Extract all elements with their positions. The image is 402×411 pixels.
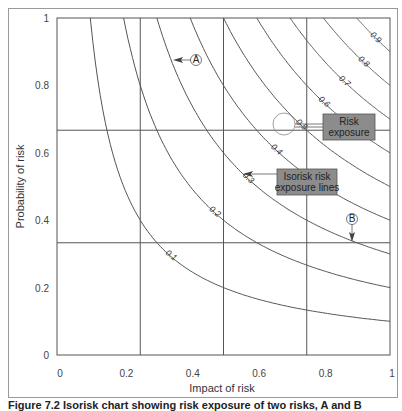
x-tick-label: 1: [389, 368, 395, 379]
x-tick-label: 0.2: [119, 368, 133, 379]
isorisk-curve-0-8: [323, 18, 390, 85]
y-tick-label: 1: [43, 13, 49, 24]
curve-label-0-4: 0.4: [269, 142, 285, 158]
y-tick-label: 0.6: [35, 148, 49, 159]
isorisk-curve-0-1: [90, 18, 390, 321]
y-tick-label: 0.4: [35, 215, 49, 226]
highlight-circle-0-5: [273, 113, 295, 135]
curve-label-0-8: 0.8: [356, 54, 372, 70]
risk-box-line1: Risk: [339, 116, 359, 127]
x-tick-label: 0.6: [252, 368, 266, 379]
y-tick-label: 0.8: [35, 80, 49, 91]
curve-label-0-1: 0.1: [164, 247, 180, 262]
plot-area: 00.20.40.60.8100.20.40.60.81Impact of ri…: [14, 13, 395, 394]
marker-a-label: A: [193, 54, 200, 65]
curve-label-0-7: 0.7: [337, 73, 353, 89]
y-tick-label: 0: [43, 350, 49, 361]
curve-label-0-9: 0.9: [368, 29, 384, 45]
marker-b-label: B: [349, 213, 356, 224]
x-axis-label: Impact of risk: [189, 382, 255, 394]
figure-caption: Figure 7.2 Isorisk chart showing risk ex…: [8, 399, 362, 411]
iso-box-line2: exposure lines: [275, 182, 339, 193]
risk-box-line2: exposure: [328, 127, 370, 138]
y-tick-label: 0.2: [35, 283, 49, 294]
x-tick-label: 0: [57, 368, 63, 379]
x-tick-label: 0.8: [319, 368, 333, 379]
x-tick-label: 0.4: [186, 368, 200, 379]
isorisk-curve-0-2: [124, 18, 390, 288]
curve-label-0-2: 0.2: [207, 204, 223, 219]
y-axis-label: Probability of risk: [14, 144, 26, 228]
curve-label-0-6: 0.6: [317, 94, 333, 110]
iso-box-line1: Isorisk risk: [283, 171, 331, 182]
